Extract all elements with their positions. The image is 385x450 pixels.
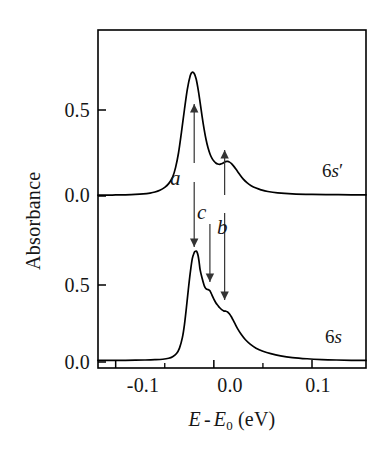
x-tick-label-0.1: 0.1 (278, 374, 358, 397)
x-tick-label-0.0: 0.0 (190, 374, 270, 397)
series-label-6s-number: 6 (325, 326, 335, 347)
annotation-label-a: a (170, 166, 181, 191)
series-label-6s: 6s (325, 326, 342, 348)
y-tick-label-lower-0.0: 0.0 (34, 351, 90, 374)
series-label-6s-prime-mark: ′ (339, 160, 343, 181)
y-tick-label-upper-0.0: 0.0 (34, 184, 90, 207)
series-label-6s-prime-number: 6 (322, 160, 332, 181)
x-axis-title-minus: - (204, 408, 211, 430)
axis-ticks (98, 110, 312, 368)
x-axis-title-sub0: 0 (226, 418, 233, 433)
series-label-6s-letter: s (335, 326, 342, 347)
y-tick-label-upper-0.5: 0.5 (34, 99, 90, 122)
figure-container: Absorbance 0.5 0.0 0.5 0.0 -0.1 0.0 0.1 … (0, 0, 385, 450)
x-axis-title: E-E0(eV) (112, 408, 352, 434)
annotation-label-b: b (217, 215, 228, 240)
y-tick-label-lower-0.5: 0.5 (34, 274, 90, 297)
x-axis-title-E: E (189, 408, 201, 430)
series-label-6s-prime: 6s′ (322, 160, 343, 182)
x-tick-label-neg0.1: -0.1 (103, 374, 183, 397)
annotation-arrows (190, 104, 229, 300)
x-axis-title-E0: E (214, 408, 226, 430)
x-axis-title-units: (eV) (238, 408, 275, 430)
annotation-label-c: c (197, 200, 206, 225)
series-label-6s-prime-letter: s (332, 160, 339, 181)
